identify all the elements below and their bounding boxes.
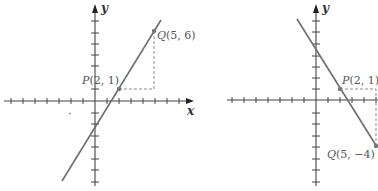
- left-x-label: x: [186, 104, 195, 118]
- right-point-p: [338, 87, 342, 91]
- right-label-p: P(2, 1): [341, 74, 378, 87]
- diagram-canvas: P(2, 1) Q(5, 6) y x: [0, 0, 378, 191]
- left-point-p: [117, 87, 121, 91]
- right-graph: P(2, 1) Q(5, −4) y: [227, 1, 378, 186]
- right-label-q: Q(5, −4): [327, 148, 375, 161]
- right-y-arrow-icon: [313, 4, 319, 13]
- stray-mark: [69, 113, 71, 114]
- left-y-label: y: [100, 1, 109, 15]
- left-graph: P(2, 1) Q(5, 6) y x: [4, 1, 196, 186]
- left-point-q: [152, 29, 156, 33]
- left-y-arrow-icon: [92, 4, 98, 13]
- left-label-q: Q(5, 6): [157, 29, 196, 42]
- right-y-label: y: [321, 1, 330, 15]
- left-label-p: P(2, 1): [81, 74, 119, 87]
